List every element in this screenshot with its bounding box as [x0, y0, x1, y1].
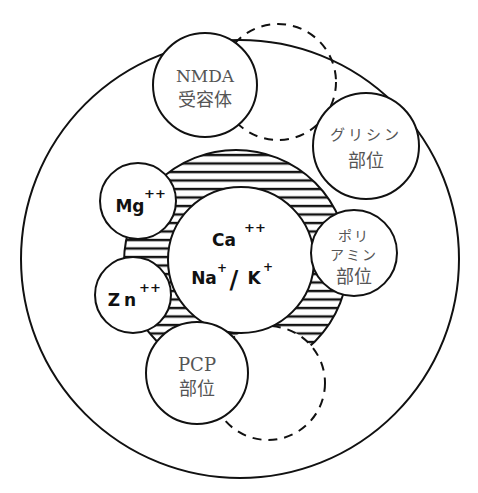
glycine-label-line2: 部位 [348, 150, 384, 171]
sodium-ion-label: Na [191, 268, 217, 288]
calcium-charge: ++ [244, 220, 266, 235]
sodium-charge: + [217, 261, 227, 275]
nmda-label-line1: NMDA [176, 66, 235, 86]
glycine-circle [313, 93, 419, 199]
nmda-label-line2: 受容体 [178, 89, 232, 110]
polyamine-label-line1: ポリ [338, 228, 370, 244]
polyamine-label-line2: アミン [330, 247, 378, 263]
potassium-charge: + [263, 260, 273, 274]
magnesium-site: Mg ++ [100, 163, 176, 239]
mg-ion-label: Mg [115, 196, 144, 216]
zinc-site: Zn ++ [95, 257, 171, 333]
potassium-ion-label: K [247, 268, 261, 288]
zn-charge: ++ [139, 280, 161, 295]
nmda-receptor-site: NMDA 受容体 [153, 33, 257, 137]
glycine-label-line1: グリシン [330, 126, 402, 144]
ion-channel: Ca ++ Na + / K + [168, 187, 314, 333]
zn-ion-label: Zn [108, 290, 140, 310]
nmda-receptor-diagram: NMDA 受容体 グリシン 部位 Ca ++ Na + / K + Mg ++ … [0, 0, 478, 493]
polyamine-site: ポリ アミン 部位 [311, 210, 397, 296]
calcium-ion-label: Ca [212, 230, 236, 250]
pcp-label-line2: 部位 [179, 378, 215, 399]
polyamine-label-line3: 部位 [336, 266, 372, 287]
glycine-site: グリシン 部位 [313, 93, 419, 199]
pcp-label-line1: PCP [178, 354, 216, 375]
ion-separator: / [230, 266, 239, 294]
pcp-site: PCP 部位 [146, 322, 248, 424]
mg-charge: ++ [144, 186, 166, 201]
channel-center-circle [168, 187, 314, 333]
